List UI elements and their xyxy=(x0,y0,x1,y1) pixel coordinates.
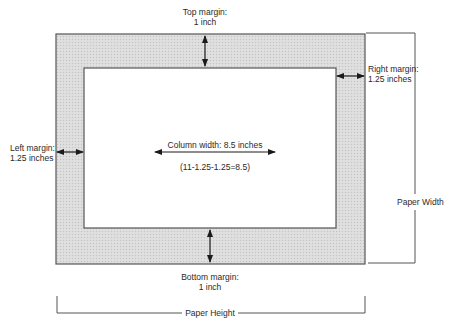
paper-width-bracket xyxy=(366,33,415,194)
paper-height-bracket xyxy=(57,296,182,313)
top-margin-value: 1 inch xyxy=(170,17,240,27)
bottom-margin-label: Bottom margin: 1 inch xyxy=(165,272,255,292)
top-margin-title: Top margin: xyxy=(170,7,240,17)
right-margin-value: 1.25 inches xyxy=(368,74,419,84)
bottom-margin-value: 1 inch xyxy=(165,282,255,292)
column-width-label: Column width: 8.5 inches xyxy=(160,140,270,150)
right-margin-label: Right margin: 1.25 inches xyxy=(368,64,419,84)
left-margin-value: 1.25 inches xyxy=(10,153,55,163)
left-margin-title: Left margin: xyxy=(10,143,55,153)
paper-width-label: Paper Width xyxy=(396,197,445,207)
bottom-margin-title: Bottom margin: xyxy=(165,272,255,282)
top-margin-label: Top margin: 1 inch xyxy=(170,7,240,27)
paper-height-label: Paper Height xyxy=(180,308,240,318)
right-margin-title: Right margin: xyxy=(368,64,419,74)
left-margin-label: Left margin: 1.25 inches xyxy=(10,143,55,163)
column-width-formula: (11-1.25-1.25=8.5) xyxy=(160,162,270,172)
